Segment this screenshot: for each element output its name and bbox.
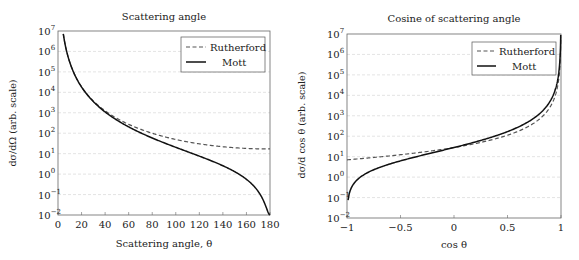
legend-mott: Mott bbox=[222, 57, 246, 68]
right-chart: Cosine of scattering angle 10−210−110010… bbox=[296, 13, 564, 250]
y-tick-label: 107 bbox=[327, 27, 344, 40]
x-tick-label: 20 bbox=[75, 219, 88, 230]
x-tick-label: 0 bbox=[451, 222, 457, 233]
left-chart: Scattering angle 10−210−1100101102103104… bbox=[7, 11, 280, 249]
figure: Scattering angle 10−210−1100101102103104… bbox=[0, 0, 579, 260]
y-tick-label: 101 bbox=[327, 150, 344, 163]
right-title: Cosine of scattering angle bbox=[387, 13, 520, 24]
x-tick-label: −0.5 bbox=[388, 222, 412, 233]
x-tick-label: 40 bbox=[99, 219, 112, 230]
x-tick-label: 60 bbox=[122, 219, 135, 230]
legend-rutherford: Rutherford bbox=[210, 42, 267, 53]
x-tick-label: 140 bbox=[213, 219, 232, 230]
x-tick-label: 120 bbox=[190, 219, 209, 230]
x-tick-label: 1 bbox=[558, 222, 564, 233]
y-tick-label: 104 bbox=[38, 85, 56, 98]
y-tick-label: 103 bbox=[327, 109, 344, 122]
x-tick-label: 100 bbox=[166, 219, 185, 230]
y-tick-label: 106 bbox=[327, 47, 345, 60]
y-tick-label: 103 bbox=[38, 106, 55, 119]
legend-mott: Mott bbox=[512, 61, 536, 72]
x-tick-label: 0.5 bbox=[500, 222, 516, 233]
right-xlabel: cos θ bbox=[441, 239, 467, 250]
y-tick-label: 102 bbox=[38, 126, 55, 139]
x-tick-label: 180 bbox=[260, 219, 279, 230]
x-tick-label: 160 bbox=[237, 219, 256, 230]
x-tick-label: 80 bbox=[146, 219, 159, 230]
y-tick-label: 106 bbox=[38, 44, 56, 57]
x-tick-label: −1 bbox=[340, 222, 355, 233]
left-xlabel: Scattering angle, θ bbox=[116, 238, 213, 249]
y-tick-label: 101 bbox=[38, 147, 55, 160]
y-tick-label: 105 bbox=[327, 68, 344, 81]
y-tick-label: 105 bbox=[38, 65, 55, 78]
right-legend: Rutherford Mott bbox=[472, 42, 556, 75]
left-title: Scattering angle bbox=[122, 11, 206, 22]
legend-rutherford: Rutherford bbox=[499, 46, 556, 57]
y-tick-label: 100 bbox=[327, 170, 344, 183]
right-ylabel: dσ/d cos θ (arb. scale) bbox=[296, 72, 307, 179]
left-legend: Rutherford Mott bbox=[181, 37, 267, 72]
left-ylabel: dσ/dΩ (arb. scale) bbox=[7, 79, 18, 166]
y-tick-label: 102 bbox=[327, 129, 344, 142]
y-tick-label: 100 bbox=[38, 167, 55, 180]
y-tick-label: 107 bbox=[38, 24, 55, 37]
x-tick-label: 0 bbox=[55, 219, 61, 230]
y-tick-label: 104 bbox=[327, 88, 345, 101]
